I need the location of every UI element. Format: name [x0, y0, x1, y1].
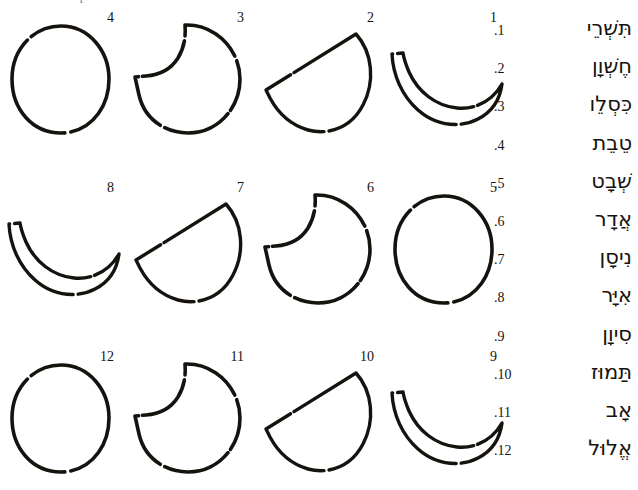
month-index-label: .8: [492, 283, 524, 313]
month-name-label: שְׁבָט: [524, 166, 638, 196]
month-row: נִיסָן.7: [492, 242, 638, 280]
month-index-label: .1: [492, 16, 524, 46]
waning-gibbous-icon: [260, 190, 383, 308]
month-row: אֲדָר.6: [492, 204, 638, 242]
month-name-label: טֵבֵת: [524, 128, 638, 158]
month-row: שְׁבָט.5: [492, 166, 638, 204]
month-name-label: תִּשְׁרֵי: [524, 13, 638, 43]
moon-cell-2: 2: [260, 11, 383, 171]
month-name-label: אָב: [524, 395, 638, 425]
half-moon-icon: [260, 359, 383, 477]
full-moon-icon: [0, 359, 123, 477]
moon-cell-5: 5: [383, 181, 506, 341]
moon-cell-10: 10: [260, 350, 383, 490]
month-name-label: סִיוָן: [524, 319, 638, 349]
month-index-label: .6: [492, 207, 524, 237]
month-index-label: .12: [492, 436, 524, 466]
clipped-caption: what the shapes in the first half: [0, 0, 460, 11]
month-name-label: תַּמוּז: [524, 357, 638, 387]
moon-phase-grid: 4 3 2 1 8 7 6 5 12 11 10 9: [0, 11, 492, 490]
month-row: סִיוָן.9: [492, 319, 638, 357]
month-row: אִיָּר.8: [492, 280, 638, 318]
moon-cell-11: 11: [130, 350, 253, 490]
half-moon-icon: [130, 190, 253, 308]
month-row: טֵבֵת.4: [492, 128, 638, 166]
moon-cell-9: 9: [383, 350, 506, 490]
month-name-label: חֶשְׁוָן: [524, 51, 638, 81]
full-moon-icon: [0, 20, 123, 138]
month-row: כִּסְלֵו.3: [492, 89, 638, 127]
moon-cell-3: 3: [130, 11, 253, 171]
month-name-label: כִּסְלֵו: [524, 89, 638, 119]
month-name-label: נִיסָן: [524, 242, 638, 272]
month-index-label: .7: [492, 245, 524, 275]
month-index-label: .3: [492, 92, 524, 122]
month-row: אָב.11: [492, 395, 638, 433]
month-index-label: .2: [492, 54, 524, 84]
month-name-label: אֲדָר: [524, 204, 638, 234]
moon-cell-1: 1: [383, 11, 506, 171]
moon-cell-6: 6: [260, 181, 383, 341]
moon-cell-8: 8: [0, 181, 123, 341]
month-row: תַּמוּז.10: [492, 357, 638, 395]
hebrew-month-list: תִּשְׁרֵי.1חֶשְׁוָן.2כִּסְלֵו.3טֵבֵת.4שְ…: [492, 13, 638, 490]
waning-gibbous-icon: [130, 20, 253, 138]
waning-gibbous-icon: [130, 359, 253, 477]
half-moon-icon: [260, 20, 383, 138]
month-index-label: .4: [492, 131, 524, 161]
month-index-label: .9: [492, 322, 524, 352]
moon-phase-month-chart: what the shapes in the first half 4 3 2 …: [0, 0, 638, 490]
month-index-label: .10: [492, 360, 524, 390]
month-row: חֶשְׁוָן.2: [492, 51, 638, 89]
moon-cell-4: 4: [0, 11, 123, 171]
month-name-label: אֱלוּל: [524, 433, 638, 463]
month-index-label: .5: [492, 169, 524, 199]
crescent-moon-icon: [0, 190, 123, 308]
month-row: אֱלוּל.12: [492, 433, 638, 471]
month-index-label: .11: [492, 398, 524, 428]
moon-cell-12: 12: [0, 350, 123, 490]
crescent-moon-icon: [383, 20, 506, 138]
crescent-moon-icon: [383, 359, 506, 477]
month-row: תִּשְׁרֵי.1: [492, 13, 638, 51]
month-name-label: אִיָּר: [524, 280, 638, 310]
caption-text: what the shapes in the first half: [2, 0, 196, 4]
moon-cell-7: 7: [130, 181, 253, 341]
full-moon-icon: [383, 190, 506, 308]
